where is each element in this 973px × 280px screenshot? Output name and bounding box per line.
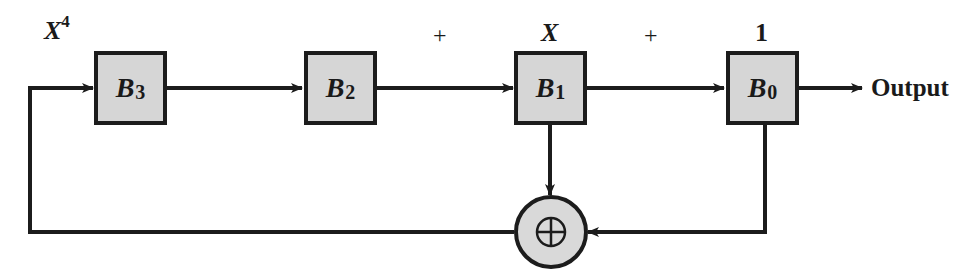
register-b0-name: B	[748, 72, 767, 104]
register-b2-sub: 2	[345, 81, 355, 104]
register-b1: B1	[514, 51, 587, 125]
label-one: 1	[755, 18, 768, 48]
diagram-lines	[0, 0, 973, 280]
register-b0-sub: 0	[767, 81, 777, 104]
label-x4-exp: 4	[61, 12, 70, 31]
register-b1-sub: 1	[555, 81, 565, 104]
plus-label-1: +	[433, 22, 447, 49]
plus-label-2: +	[644, 22, 658, 49]
register-b3-name: B	[116, 72, 135, 104]
register-b2: B2	[304, 51, 377, 125]
output-label: Output	[871, 74, 949, 102]
arrow-b0-xor	[588, 125, 765, 232]
label-x: X	[541, 18, 558, 48]
register-b1-name: B	[536, 72, 555, 104]
register-b0: B0	[726, 51, 799, 125]
feedback-arrow-to-b3	[30, 88, 93, 232]
register-b2-name: B	[326, 72, 345, 104]
label-x4: X4	[44, 14, 70, 46]
register-b3: B3	[94, 51, 167, 125]
xor-gate	[516, 197, 586, 267]
label-x4-base: X	[44, 16, 61, 45]
register-b3-sub: 3	[135, 81, 145, 104]
